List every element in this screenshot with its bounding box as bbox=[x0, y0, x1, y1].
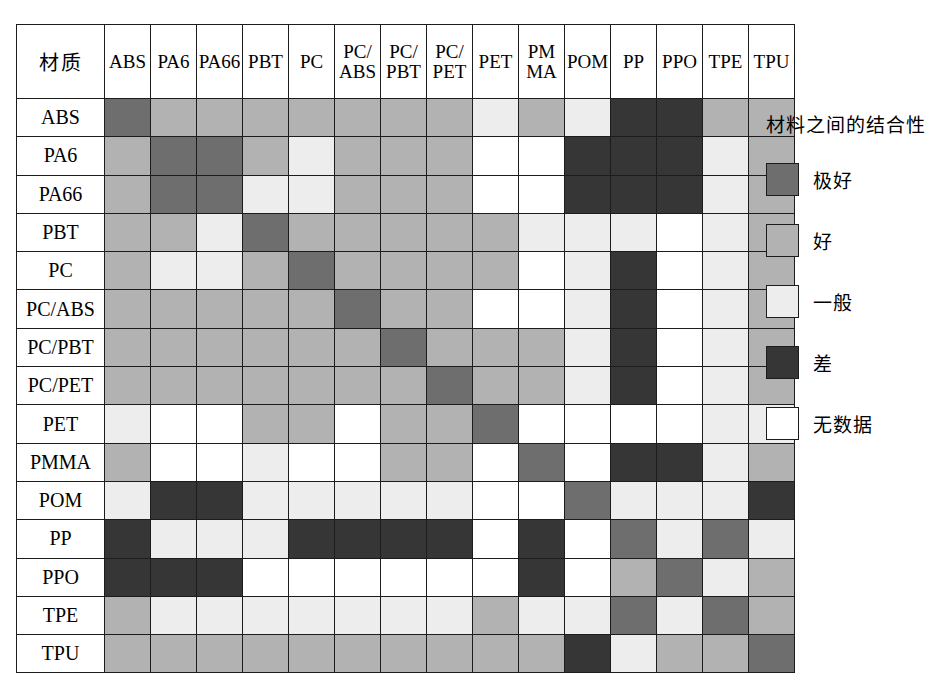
matrix-cell bbox=[197, 175, 243, 213]
legend-swatch-good bbox=[766, 224, 799, 257]
column-header-pc: PC bbox=[289, 25, 335, 99]
compatibility-matrix-figure: 材质 ABSPA6PA66PBTPCPC/ABSPC/PBTPC/PETPETP… bbox=[0, 0, 951, 689]
matrix-cell bbox=[151, 558, 197, 596]
matrix-cell bbox=[565, 596, 611, 634]
matrix-cell bbox=[289, 558, 335, 596]
matrix-cell bbox=[289, 252, 335, 290]
matrix-cell bbox=[703, 252, 749, 290]
matrix-cell bbox=[289, 290, 335, 328]
matrix-cell bbox=[611, 635, 657, 673]
matrix-cell bbox=[289, 405, 335, 443]
matrix-cell bbox=[197, 443, 243, 481]
matrix-cell bbox=[105, 443, 151, 481]
row-header-pp: PP bbox=[17, 520, 105, 558]
matrix-cell bbox=[381, 99, 427, 137]
row-header-ppo: PPO bbox=[17, 558, 105, 596]
column-header-line: PC/ bbox=[381, 42, 426, 62]
legend-swatch-fair bbox=[766, 285, 799, 318]
matrix-cell bbox=[151, 481, 197, 519]
matrix-cell bbox=[243, 635, 289, 673]
matrix-cell bbox=[657, 290, 703, 328]
matrix-cell bbox=[519, 367, 565, 405]
matrix-cell bbox=[105, 175, 151, 213]
column-header-pc-pet: PC/PET bbox=[427, 25, 473, 99]
corner-header-cell: 材质 bbox=[17, 25, 105, 99]
matrix-cell bbox=[381, 252, 427, 290]
row-header-pa6: PA6 bbox=[17, 137, 105, 175]
matrix-row: POM bbox=[17, 481, 795, 519]
matrix-cell bbox=[335, 520, 381, 558]
matrix-cell bbox=[657, 252, 703, 290]
matrix-cell bbox=[197, 481, 243, 519]
matrix-cell bbox=[611, 367, 657, 405]
matrix-cell bbox=[519, 596, 565, 634]
matrix-cell bbox=[197, 596, 243, 634]
matrix-cell bbox=[565, 99, 611, 137]
matrix-cell bbox=[197, 252, 243, 290]
matrix-cell bbox=[381, 481, 427, 519]
matrix-row: PPO bbox=[17, 558, 795, 596]
matrix-cell bbox=[427, 290, 473, 328]
row-header-pmma: PMMA bbox=[17, 443, 105, 481]
row-header-pom: POM bbox=[17, 481, 105, 519]
column-header-pa6: PA6 bbox=[151, 25, 197, 99]
matrix-cell bbox=[289, 596, 335, 634]
matrix-cell bbox=[657, 635, 703, 673]
matrix-cell bbox=[105, 558, 151, 596]
matrix-cell bbox=[427, 367, 473, 405]
row-header-pbt: PBT bbox=[17, 213, 105, 251]
matrix-cell bbox=[657, 405, 703, 443]
row-header-pa66: PA66 bbox=[17, 175, 105, 213]
matrix-cell bbox=[335, 252, 381, 290]
column-header-line: PA6 bbox=[151, 52, 196, 72]
matrix-cell bbox=[427, 443, 473, 481]
legend-label-good: 好 bbox=[813, 227, 833, 254]
matrix-cell bbox=[243, 137, 289, 175]
matrix-cell bbox=[657, 213, 703, 251]
matrix-cell bbox=[519, 558, 565, 596]
matrix-cell bbox=[243, 252, 289, 290]
matrix-cell bbox=[657, 596, 703, 634]
matrix-cell bbox=[519, 137, 565, 175]
matrix-cell bbox=[105, 635, 151, 673]
matrix-cell bbox=[243, 443, 289, 481]
matrix-cell bbox=[197, 367, 243, 405]
matrix-cell bbox=[611, 481, 657, 519]
matrix-cell bbox=[289, 635, 335, 673]
matrix-head: 材质 ABSPA6PA66PBTPCPC/ABSPC/PBTPC/PETPETP… bbox=[17, 25, 795, 99]
matrix-cell bbox=[289, 443, 335, 481]
matrix-cell bbox=[243, 481, 289, 519]
matrix-cell bbox=[565, 443, 611, 481]
legend-swatch-poor bbox=[766, 346, 799, 379]
matrix-cell bbox=[243, 596, 289, 634]
column-header-tpe: TPE bbox=[703, 25, 749, 99]
column-header-pp: PP bbox=[611, 25, 657, 99]
matrix-cell bbox=[335, 290, 381, 328]
matrix-cell bbox=[427, 99, 473, 137]
column-header-line: PC/ bbox=[427, 42, 472, 62]
matrix-cell bbox=[703, 596, 749, 634]
column-header-line: PM bbox=[519, 42, 564, 62]
matrix-cell bbox=[473, 137, 519, 175]
column-header-pet: PET bbox=[473, 25, 519, 99]
matrix-cell bbox=[151, 252, 197, 290]
column-header-pom: POM bbox=[565, 25, 611, 99]
matrix-cell bbox=[151, 596, 197, 634]
matrix-cell bbox=[289, 137, 335, 175]
matrix-cell bbox=[335, 481, 381, 519]
matrix-cell bbox=[381, 137, 427, 175]
matrix-cell bbox=[427, 635, 473, 673]
matrix-cell bbox=[151, 213, 197, 251]
matrix-cell bbox=[519, 405, 565, 443]
matrix-row: PP bbox=[17, 520, 795, 558]
legend-swatch-nodata bbox=[766, 407, 799, 440]
matrix-body: ABSPA6PA66PBTPCPC/ABSPC/PBTPC/PETPETPMMA… bbox=[17, 99, 795, 673]
matrix-cell bbox=[473, 175, 519, 213]
matrix-row: PC bbox=[17, 252, 795, 290]
matrix-cell bbox=[519, 99, 565, 137]
matrix-cell bbox=[519, 635, 565, 673]
column-header-pc-pbt: PC/PBT bbox=[381, 25, 427, 99]
matrix-cell bbox=[381, 405, 427, 443]
matrix-row: PC/ABS bbox=[17, 290, 795, 328]
column-header-pc-abs: PC/ABS bbox=[335, 25, 381, 99]
